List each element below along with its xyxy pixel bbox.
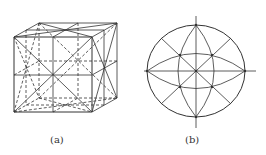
panel-b-label: (b) xyxy=(185,134,199,145)
stereographic-projection xyxy=(144,16,256,128)
panel-a-label: (a) xyxy=(50,134,64,145)
cube-diagram xyxy=(14,23,117,112)
diagram-canvas xyxy=(0,0,266,155)
